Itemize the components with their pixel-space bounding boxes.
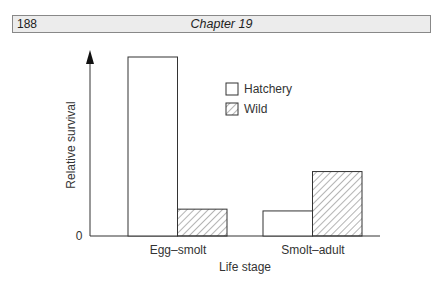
bar-chart: 0 Relative survival Life stage Egg–smolt…	[0, 0, 444, 285]
y-axis-arrow-icon	[86, 50, 94, 64]
y-zero-label: 0	[76, 229, 83, 243]
legend-swatch-hatchery	[226, 83, 238, 95]
y-axis-label: Relative survival	[64, 101, 78, 188]
bar-wild-0	[178, 209, 228, 236]
bar-hatchery-0	[128, 57, 178, 236]
legend: Hatchery Wild	[226, 82, 292, 116]
category-label: Egg–smolt	[150, 243, 207, 257]
legend-swatch-wild	[226, 103, 238, 115]
bar-hatchery-1	[263, 211, 313, 236]
legend-label-wild: Wild	[244, 102, 267, 116]
x-axis-label: Life stage	[219, 260, 271, 274]
bar-wild-1	[313, 172, 363, 236]
legend-label-hatchery: Hatchery	[244, 82, 292, 96]
category-label: Smolt–adult	[281, 243, 345, 257]
